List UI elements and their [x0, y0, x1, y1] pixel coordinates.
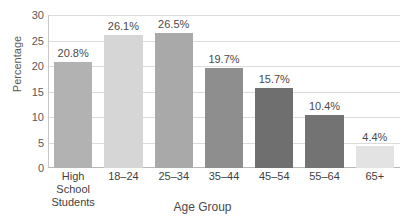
bar: [54, 62, 92, 168]
bar-slot: 26.5%: [149, 15, 199, 168]
bar-slot: 10.4%: [299, 15, 349, 168]
bar-slot: 4.4%: [350, 15, 400, 168]
y-axis-tick-label: 10: [18, 112, 44, 122]
y-axis-tick-label: 5: [18, 138, 44, 148]
bar-value-label: 10.4%: [299, 100, 349, 112]
bar-value-label: 20.8%: [48, 47, 98, 59]
y-axis-tick-label: 0: [18, 163, 44, 173]
bar: [205, 68, 243, 168]
bar: [356, 146, 394, 168]
bar-value-label: 26.1%: [98, 20, 148, 32]
y-axis-tick-label: 15: [18, 87, 44, 97]
bar: [155, 33, 193, 168]
x-axis-title: Age Group: [0, 200, 405, 214]
y-axis-tick-label: 30: [18, 10, 44, 20]
bar-slot: 15.7%: [249, 15, 299, 168]
y-axis-tick-label: 20: [18, 61, 44, 71]
bar: [104, 35, 142, 168]
y-axis-tick-label: 25: [18, 36, 44, 46]
bar: [255, 88, 293, 168]
plot-area: 20.8%26.1%26.5%19.7%15.7%10.4%4.4%: [48, 15, 400, 168]
bar-slot: 20.8%: [48, 15, 98, 168]
bar-slot: 19.7%: [199, 15, 249, 168]
y-axis-tick-labels: 051015202530: [18, 15, 44, 168]
bar-value-label: 15.7%: [249, 73, 299, 85]
bar-chart: Percentage 051015202530 20.8%26.1%26.5%1…: [0, 0, 405, 220]
bar-series: 20.8%26.1%26.5%19.7%15.7%10.4%4.4%: [48, 15, 400, 168]
bar-value-label: 26.5%: [149, 18, 199, 30]
bar-value-label: 4.4%: [350, 131, 400, 143]
bar: [305, 115, 343, 168]
chart-title: [0, 0, 405, 2]
bar-slot: 26.1%: [98, 15, 148, 168]
bar-value-label: 19.7%: [199, 53, 249, 65]
